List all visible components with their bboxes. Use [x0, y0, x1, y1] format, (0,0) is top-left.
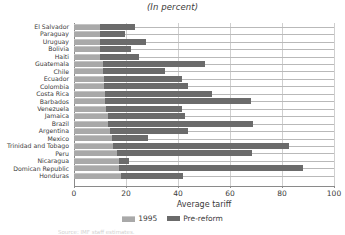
bar-row[interactable] [74, 165, 334, 172]
bar-row[interactable] [74, 105, 334, 112]
stacked-bar[interactable] [74, 24, 135, 30]
legend-item-pre-reform[interactable]: Pre-reform [167, 214, 223, 223]
stacked-bar[interactable] [74, 68, 165, 74]
bar-row[interactable] [74, 60, 334, 67]
bar-segment-pre-reform [103, 68, 165, 74]
bar-row[interactable] [74, 127, 334, 134]
bar-segment-1995 [74, 31, 100, 37]
bar-segment-1995 [74, 150, 117, 156]
chart-legend: 1995 Pre-reform [0, 214, 345, 223]
stacked-bar[interactable] [74, 173, 183, 179]
x-tick-mark [230, 186, 231, 188]
bar-row[interactable] [74, 45, 334, 52]
bar-row[interactable] [74, 98, 334, 105]
y-axis-label: Trinidad and Tobago [0, 142, 71, 149]
bar-segment-1995 [74, 24, 100, 30]
x-tick-mark [178, 186, 179, 188]
bar-segment-pre-reform [117, 150, 252, 156]
bar-segment-pre-reform [110, 128, 188, 134]
bar-segment-pre-reform [119, 165, 302, 171]
y-axis-label: Nicaragua [0, 157, 71, 164]
y-axis-label: Brazil [0, 120, 71, 127]
stacked-bar[interactable] [74, 76, 182, 82]
bar-segment-1995 [74, 113, 108, 119]
legend-label-1995: 1995 [138, 214, 157, 223]
y-axis-label: Colombia [0, 83, 71, 90]
bar-segment-pre-reform [100, 24, 135, 30]
x-tick-label: 20 [121, 189, 131, 198]
bar-row[interactable] [74, 38, 334, 45]
stacked-bar[interactable] [74, 39, 146, 45]
x-tick-mark [282, 186, 283, 188]
x-tick-label: 80 [277, 189, 287, 198]
bar-row[interactable] [74, 90, 334, 97]
y-axis-label: Costa Rica [0, 90, 71, 97]
bar-segment-pre-reform [106, 106, 181, 112]
bar-segment-1995 [74, 158, 119, 164]
stacked-bar[interactable] [74, 31, 125, 37]
bar-row[interactable] [74, 172, 334, 179]
stacked-bar[interactable] [74, 165, 303, 171]
x-tick-mark [334, 186, 335, 188]
bar-segment-pre-reform [103, 61, 206, 67]
stacked-bar[interactable] [74, 143, 289, 149]
bar-row[interactable] [74, 150, 334, 157]
y-axis-label: Haiti [0, 53, 71, 60]
x-axis-title: Average tariff [74, 200, 334, 209]
legend-item-1995[interactable]: 1995 [122, 214, 157, 223]
bar-segment-1995 [74, 91, 105, 97]
bar-row[interactable] [74, 23, 334, 30]
stacked-bar[interactable] [74, 150, 252, 156]
y-axis-label: Mexico [0, 135, 71, 142]
bar-segment-pre-reform [100, 31, 125, 37]
x-tick-mark [126, 186, 127, 188]
bar-row[interactable] [74, 83, 334, 90]
stacked-bar[interactable] [74, 91, 212, 97]
bar-segment-pre-reform [100, 39, 146, 45]
y-axis-label: Chile [0, 68, 71, 75]
stacked-bar[interactable] [74, 46, 131, 52]
legend-swatch-icon [167, 216, 180, 221]
stacked-bar[interactable] [74, 98, 251, 104]
bar-row[interactable] [74, 53, 334, 60]
y-axis-label: Uruguay [0, 38, 71, 45]
bar-segment-pre-reform [105, 98, 251, 104]
y-axis-label: Jamaica [0, 112, 71, 119]
y-axis-label: Peru [0, 150, 71, 157]
stacked-bar[interactable] [74, 83, 188, 89]
legend-label-pre-reform: Pre-reform [183, 214, 223, 223]
bar-row[interactable] [74, 68, 334, 75]
bar-row[interactable] [74, 75, 334, 82]
bar-row[interactable] [74, 135, 334, 142]
bar-segment-pre-reform [104, 83, 189, 89]
bar-segment-1995 [74, 61, 103, 67]
stacked-bar[interactable] [74, 121, 253, 127]
y-axis-label: Domican Republic [0, 165, 71, 172]
chart-figure: (In percent) El SalvadorParaguayUruguayB… [0, 0, 345, 235]
bar-rows [74, 23, 334, 186]
chart-subtitle: (In percent) [0, 2, 345, 12]
bar-segment-1995 [74, 128, 110, 134]
bar-row[interactable] [74, 30, 334, 37]
bar-segment-1995 [74, 68, 103, 74]
bar-row[interactable] [74, 112, 334, 119]
stacked-bar[interactable] [74, 61, 205, 67]
stacked-bar[interactable] [74, 54, 139, 60]
stacked-bar[interactable] [74, 128, 188, 134]
y-axis-label: Ecuador [0, 75, 71, 82]
bar-segment-pre-reform [100, 46, 131, 52]
stacked-bar[interactable] [74, 158, 129, 164]
x-tick-label: 60 [225, 189, 235, 198]
stacked-bar[interactable] [74, 106, 182, 112]
y-axis-label: Venezuela [0, 105, 71, 112]
y-axis-label: El Salvador [0, 23, 71, 30]
bar-segment-pre-reform [108, 113, 185, 119]
source-footnote: Source: IMF staff estimates. [58, 229, 338, 235]
bar-row[interactable] [74, 120, 334, 127]
gridline [334, 23, 335, 186]
bar-row[interactable] [74, 142, 334, 149]
bar-segment-1995 [74, 46, 100, 52]
stacked-bar[interactable] [74, 113, 185, 119]
bar-row[interactable] [74, 157, 334, 164]
stacked-bar[interactable] [74, 135, 148, 141]
